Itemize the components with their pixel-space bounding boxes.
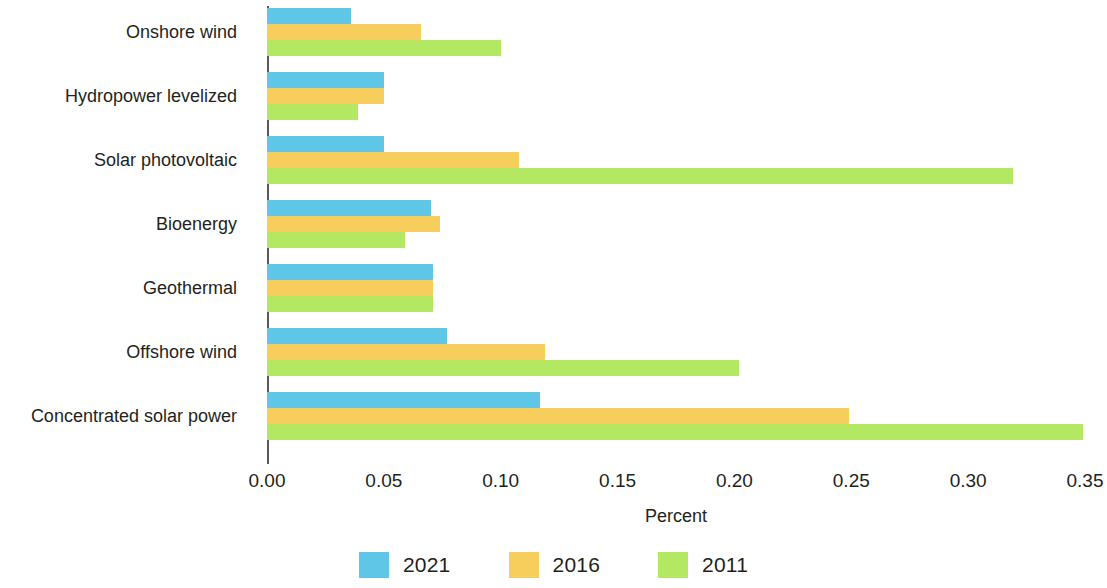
bar-group — [267, 136, 1085, 184]
legend-item-2021[interactable]: 2021 — [359, 552, 451, 578]
bar-2011 — [267, 360, 739, 376]
bar-group — [267, 264, 1085, 312]
x-tick-label: 0.20 — [694, 470, 774, 492]
legend-label: 2021 — [403, 553, 451, 577]
x-tick-label: 0.10 — [461, 470, 541, 492]
bar-2021 — [267, 328, 447, 344]
bar-group — [267, 72, 1085, 120]
bar-group — [267, 200, 1085, 248]
legend-swatch-icon — [359, 552, 389, 578]
bar-2011 — [267, 40, 501, 56]
x-tick-label: 0.15 — [578, 470, 658, 492]
x-axis-tick-labels: 0.000.050.100.150.200.250.300.35 — [267, 470, 1085, 496]
category-label: Onshore wind — [0, 22, 237, 42]
bar-2016 — [267, 152, 519, 168]
chart-legend: 202120162011 — [0, 552, 1107, 578]
bar-2016 — [267, 216, 440, 232]
legend-swatch-icon — [509, 552, 539, 578]
bar-2011 — [267, 168, 1013, 184]
bar-2021 — [267, 8, 351, 24]
bar-2021 — [267, 72, 384, 88]
bar-group — [267, 392, 1085, 440]
bar-2011 — [267, 104, 358, 120]
plot-area — [267, 8, 1085, 460]
category-label: Hydropower levelized — [0, 86, 237, 106]
bar-2021 — [267, 136, 384, 152]
x-tick-label: 0.30 — [928, 470, 1008, 492]
bar-2016 — [267, 88, 384, 104]
category-label: Concentrated solar power — [0, 406, 237, 426]
bar-group — [267, 328, 1085, 376]
legend-item-2011[interactable]: 2011 — [658, 552, 748, 578]
bar-chart: Onshore windHydropower levelizedSolar ph… — [0, 0, 1107, 588]
x-axis-title: Percent — [267, 506, 1085, 527]
bar-2021 — [267, 200, 431, 216]
legend-item-2016[interactable]: 2016 — [509, 552, 601, 578]
bar-2011 — [267, 232, 405, 248]
bar-2011 — [267, 424, 1083, 440]
bar-2016 — [267, 344, 545, 360]
bar-2016 — [267, 280, 433, 296]
category-label: Bioenergy — [0, 214, 237, 234]
x-tick-label: 0.00 — [227, 470, 307, 492]
x-tick-label: 0.35 — [1045, 470, 1107, 492]
bar-group — [267, 8, 1085, 56]
legend-label: 2011 — [702, 553, 748, 577]
x-tick-label: 0.05 — [344, 470, 424, 492]
category-label: Geothermal — [0, 278, 237, 298]
bar-2016 — [267, 24, 421, 40]
bar-2016 — [267, 408, 849, 424]
category-label: Offshore wind — [0, 342, 237, 362]
bar-2021 — [267, 392, 540, 408]
category-label: Solar photovoltaic — [0, 150, 237, 170]
x-tick-label: 0.25 — [811, 470, 891, 492]
bar-2011 — [267, 296, 433, 312]
legend-swatch-icon — [658, 552, 688, 578]
bar-2021 — [267, 264, 433, 280]
legend-label: 2016 — [553, 553, 601, 577]
